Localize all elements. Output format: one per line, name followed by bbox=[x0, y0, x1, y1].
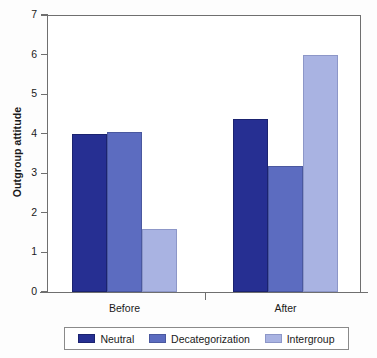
bar-chart-figure: Outgroup attitude 01234567 BeforeAfter N… bbox=[0, 0, 377, 358]
y-axis-tick bbox=[41, 54, 48, 55]
legend-swatch-icon bbox=[149, 334, 166, 343]
chart-legend: NeutralDecategorizationIntergroup bbox=[64, 327, 349, 350]
y-axis-tick bbox=[41, 252, 48, 253]
bar-after-neutral bbox=[233, 119, 268, 292]
bar-after-decategorization bbox=[268, 166, 303, 292]
y-axis-tick bbox=[41, 133, 48, 134]
y-axis-tick-label: 1 bbox=[20, 246, 37, 257]
legend-item-decategorization[interactable]: Decategorization bbox=[149, 333, 250, 345]
y-axis-tick bbox=[41, 14, 48, 15]
legend-label: Neutral bbox=[100, 333, 134, 345]
y-axis-tick-label: 2 bbox=[20, 207, 37, 218]
legend-label: Intergroup bbox=[287, 333, 335, 345]
bar-before-neutral bbox=[72, 134, 107, 292]
legend-item-neutral[interactable]: Neutral bbox=[78, 333, 134, 345]
y-axis-tick bbox=[41, 94, 48, 95]
y-axis-tick-label: 0 bbox=[20, 286, 37, 297]
y-axis-tick-label: 3 bbox=[20, 167, 37, 178]
group-separator-tick bbox=[205, 293, 206, 300]
x-axis-label-after: After bbox=[246, 302, 326, 314]
y-axis-tick bbox=[41, 212, 48, 213]
bar-before-decategorization bbox=[107, 132, 142, 292]
y-axis-tick-label: 5 bbox=[20, 88, 37, 99]
bar-after-intergroup bbox=[303, 55, 338, 292]
y-axis-tick-label: 4 bbox=[20, 128, 37, 139]
legend-item-intergroup[interactable]: Intergroup bbox=[265, 333, 335, 345]
bar-before-intergroup bbox=[142, 229, 177, 292]
x-axis-label-before: Before bbox=[85, 302, 165, 314]
y-axis-tick-label: 6 bbox=[20, 49, 37, 60]
legend-swatch-icon bbox=[265, 334, 282, 343]
legend-swatch-icon bbox=[78, 334, 95, 343]
y-axis-title: Outgroup attitude bbox=[11, 92, 25, 212]
y-axis-tick bbox=[41, 173, 48, 174]
legend-label: Decategorization bbox=[171, 333, 250, 345]
x-axis-line bbox=[40, 292, 368, 293]
y-axis-tick bbox=[41, 291, 48, 292]
y-axis-tick-label: 7 bbox=[20, 9, 37, 20]
